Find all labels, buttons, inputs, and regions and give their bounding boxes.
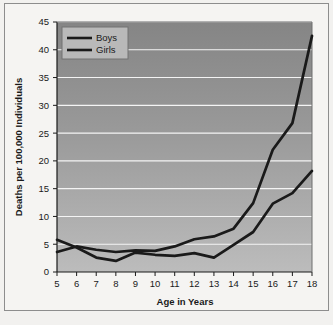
y-tick-label: 20 [38,155,49,166]
x-tick-label: 17 [287,278,298,289]
x-tick-label: 15 [248,278,259,289]
x-tick-label: 7 [94,278,99,289]
y-tick-label: 5 [44,239,49,250]
x-tick-label: 11 [170,278,180,289]
x-tick-label: 18 [307,278,318,289]
legend-label-boys: Boys [96,32,117,43]
line-chart: 051015202530354045 567891011121314151617… [0,0,333,325]
x-axis-title: Age in Years [157,296,214,307]
x-tick-label: 13 [209,278,220,289]
legend-label-girls: Girls [96,44,116,55]
y-tick-label: 40 [38,44,49,55]
y-tick-label: 45 [38,16,49,27]
x-tick-label: 12 [189,278,200,289]
x-tick-label: 10 [150,278,161,289]
y-tick-label: 30 [38,100,49,111]
y-axis-tick-labels: 051015202530354045 [38,16,49,277]
y-tick-label: 10 [38,211,49,222]
y-axis-title: Deaths per 100,000 Individuals [13,78,24,216]
y-tick-label: 15 [38,183,49,194]
x-tick-label: 14 [228,278,239,289]
x-tick-label: 8 [113,278,118,289]
x-axis-tick-labels: 56789101112131415161718 [54,278,317,289]
x-tick-label: 6 [74,278,79,289]
y-tick-label: 35 [38,72,49,83]
x-tick-label: 16 [267,278,278,289]
y-tick-label: 0 [44,266,49,277]
x-tick-label: 5 [54,278,59,289]
x-tick-label: 9 [133,278,138,289]
figure-container: 051015202530354045 567891011121314151617… [0,0,333,325]
y-tick-label: 25 [38,128,49,139]
legend-background [62,27,128,59]
chart-legend[interactable]: Boys Girls [62,27,128,59]
